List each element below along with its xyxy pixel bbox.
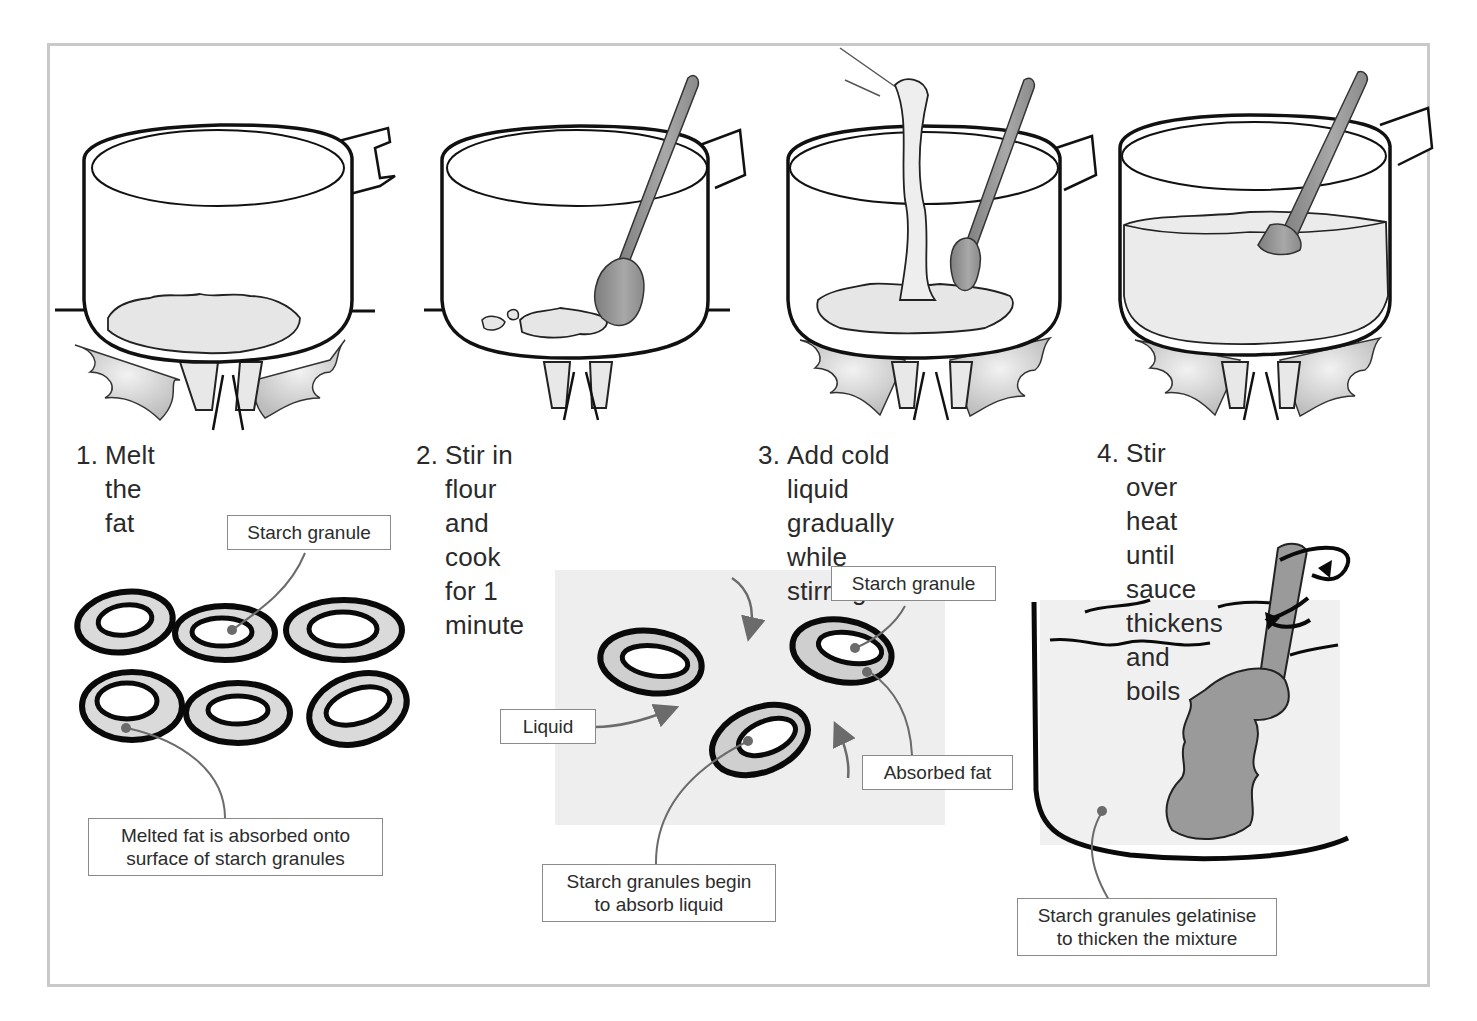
- melted-fat: [108, 294, 300, 353]
- pointer-dot: [121, 723, 131, 733]
- step-text: Stir over heat until sauce thickens and …: [1126, 436, 1223, 708]
- pan-3-add-liquid: [788, 48, 1096, 420]
- pointer-dot: [1097, 806, 1107, 816]
- burner-icon: [892, 362, 918, 408]
- burner-icon: [544, 362, 570, 408]
- pointer-dot: [862, 667, 872, 677]
- step-number: 1.: [76, 438, 98, 472]
- label-begin-absorb: Starch granules begin to absorb liquid: [542, 864, 776, 922]
- step-text: Stir in flour and cook for 1 minute: [445, 438, 524, 642]
- step-text: Melt the fat: [105, 438, 155, 540]
- pointer-dot: [850, 643, 860, 653]
- label-melted-fat: Melted fat is absorbed onto surface of s…: [88, 818, 383, 876]
- burner-icon: [1222, 362, 1248, 408]
- pan-2-stir-flour: [424, 76, 745, 420]
- pan-4-thicken: [1120, 72, 1432, 420]
- pointer-dot: [743, 736, 753, 746]
- label-starch-granule-1: Starch granule: [227, 515, 391, 550]
- step-number: 2.: [416, 438, 438, 472]
- burner-icon: [180, 362, 218, 410]
- label-absorbed-fat: Absorbed fat: [862, 755, 1013, 790]
- label-gelatinise: Starch granules gelatinise to thicken th…: [1017, 898, 1277, 956]
- pointer-dot: [227, 625, 237, 635]
- pan-1-melt-fat: [55, 125, 395, 430]
- label-liquid: Liquid: [500, 709, 596, 744]
- label-starch-granule-2: Starch granule: [831, 566, 996, 601]
- step-number: 3.: [758, 438, 780, 472]
- step-number: 4.: [1097, 436, 1119, 470]
